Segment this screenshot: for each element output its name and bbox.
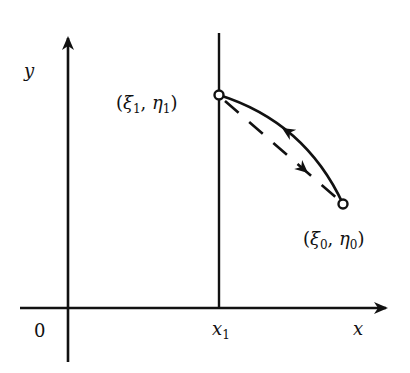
p0-eta: η <box>339 228 350 249</box>
p0-xi-sub: 0 <box>320 238 328 252</box>
p0-open-paren: ( <box>303 228 310 249</box>
p0-comma: , <box>328 228 339 249</box>
p1-eta: η <box>152 92 163 113</box>
point-p0-label: (ξ0, η0) <box>303 230 365 251</box>
x-axis-label: x <box>353 320 363 338</box>
p0-close-paren: ) <box>357 228 364 249</box>
x1-label: x1 <box>212 320 230 341</box>
dashed-chord <box>225 101 339 200</box>
x1-subscript: 1 <box>222 328 230 342</box>
p1-close-paren: ) <box>170 92 177 113</box>
diagram-figure: y 0 x x1 (ξ1, η1) (ξ0, η0) <box>0 0 410 373</box>
diagram-canvas <box>0 0 410 373</box>
p1-comma: , <box>141 92 152 113</box>
point-xi0-eta0 <box>339 200 348 209</box>
point-xi1-eta1 <box>215 91 224 100</box>
p1-open-paren: ( <box>116 92 123 113</box>
p1-xi-sub: 1 <box>133 102 141 116</box>
p0-xi: ξ <box>310 228 320 249</box>
p1-xi: ξ <box>123 92 133 113</box>
y-axis-label: y <box>24 62 34 80</box>
point-p1-label: (ξ1, η1) <box>116 94 178 115</box>
x1-base: x <box>212 318 222 339</box>
origin-label: 0 <box>34 322 45 340</box>
